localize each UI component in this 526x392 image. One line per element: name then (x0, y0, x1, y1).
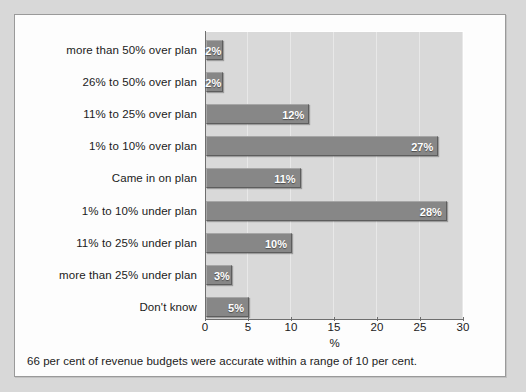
bar-row: Came in on plan11% (15, 162, 507, 194)
x-tick-label: 25 (400, 321, 440, 333)
bar-row: 1% to 10% over plan27% (15, 130, 507, 162)
category-label: Came in on plan (15, 162, 197, 194)
chart-caption: 66 per cent of revenue budgets were accu… (27, 355, 497, 367)
bar-track: 11% (206, 162, 464, 194)
bar-track: 2% (206, 34, 464, 66)
bar[interactable]: 5% (206, 297, 249, 317)
bar-value-label: 11% (274, 169, 295, 189)
category-label: 1% to 10% under plan (15, 195, 197, 227)
page-background: more than 50% over plan2%26% to 50% over… (0, 0, 526, 392)
x-tick-label: 10 (271, 321, 311, 333)
bar-value-label: 2% (205, 73, 221, 93)
bar-row: Don't know5% (15, 291, 507, 323)
bar[interactable]: 2% (206, 72, 223, 92)
x-tick-label: 30 (443, 321, 483, 333)
bar-row: 11% to 25% under plan10% (15, 227, 507, 259)
bar-value-label: 5% (228, 298, 244, 318)
bar[interactable]: 10% (206, 233, 292, 253)
bar-row: 26% to 50% over plan2% (15, 66, 507, 98)
bar[interactable]: 28% (206, 201, 447, 221)
bar-track: 28% (206, 195, 464, 227)
bar-value-label: 27% (411, 137, 433, 157)
bar[interactable]: 11% (206, 168, 301, 188)
bar-value-label: 2% (205, 41, 221, 61)
bar[interactable]: 2% (206, 40, 223, 60)
category-label: 1% to 10% over plan (15, 130, 197, 162)
category-label: 11% to 25% under plan (15, 227, 197, 259)
bar[interactable]: 27% (206, 136, 438, 156)
bar-value-label: 3% (214, 266, 230, 286)
x-tick-label: 20 (357, 321, 397, 333)
chart-card: more than 50% over plan2%26% to 50% over… (14, 14, 506, 377)
category-label: 11% to 25% over plan (15, 98, 197, 130)
category-label: more than 50% over plan (15, 34, 197, 66)
category-label: more than 25% under plan (15, 259, 197, 291)
bar-row: 1% to 10% under plan28% (15, 195, 507, 227)
bar-value-label: 12% (282, 105, 304, 125)
bar-row: more than 50% over plan2% (15, 34, 507, 66)
x-axis-ticks: 051015202530 (205, 321, 464, 337)
bar-row: 11% to 25% over plan12% (15, 98, 507, 130)
bar-value-label: 28% (420, 202, 442, 222)
bar-track: 3% (206, 259, 464, 291)
x-axis-title: % (205, 337, 464, 349)
bar-row: more than 25% under plan3% (15, 259, 507, 291)
bar-track: 5% (206, 291, 464, 323)
x-tick-label: 5 (228, 321, 268, 333)
category-label: 26% to 50% over plan (15, 66, 197, 98)
bar-value-label: 10% (265, 234, 287, 254)
bar-track: 10% (206, 227, 464, 259)
x-tick-label: 15 (314, 321, 354, 333)
x-tick-label: 0 (185, 321, 225, 333)
bar[interactable]: 12% (206, 104, 309, 124)
category-label: Don't know (15, 291, 197, 323)
bar-chart: more than 50% over plan2%26% to 50% over… (15, 15, 507, 378)
bar-track: 27% (206, 130, 464, 162)
bar-track: 12% (206, 98, 464, 130)
bar[interactable]: 3% (206, 265, 232, 285)
bar-track: 2% (206, 66, 464, 98)
